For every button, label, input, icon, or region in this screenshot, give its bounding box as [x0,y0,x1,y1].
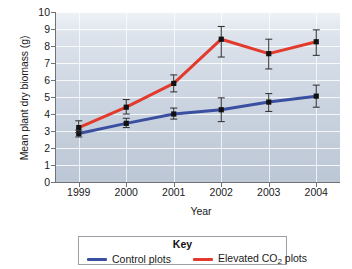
x-axis-tick-label: 2002 [194,186,248,198]
legend-item-elevated: Elevated CO2 plots [193,252,307,266]
x-axis-tick-mark [316,183,317,187]
data-point-marker [266,100,271,105]
y-axis-tick-label: 0 [16,177,50,188]
data-series-layer [55,12,340,182]
legend-swatch-control-icon [87,258,107,261]
data-point-marker [219,37,224,42]
x-axis-tick-mark [221,183,222,187]
y-axis-tick-label: 7 [16,58,50,69]
y-axis-tick-label: 1 [16,160,50,171]
legend-label-elevated: Elevated CO2 plots [218,252,307,266]
data-point-marker [171,81,176,86]
y-axis-tick-label: 9 [16,24,50,35]
y-axis-tick-label: 10 [16,7,50,18]
data-point-marker [171,111,176,116]
legend-title: Key [79,238,286,250]
y-axis-tick-label: 8 [16,41,50,52]
data-point-marker [266,51,271,56]
legend-entries: Control plots Elevated CO2 plots [79,252,286,266]
x-axis-title: Year [55,205,347,217]
data-point-marker [124,121,129,126]
chart-figure: Mean plant dry biomass (g) 012345678910 … [0,0,352,269]
x-axis-tick-label: 2001 [147,186,201,198]
data-point-marker [76,125,81,130]
data-point-marker [219,107,224,112]
x-axis-line [55,182,340,183]
y-axis-tick-label: 4 [16,109,50,120]
legend-label-elevated-prefix: Elevated CO [218,252,278,264]
x-axis-tick-label: 2000 [99,186,153,198]
legend-swatch-elevated-icon [193,258,213,261]
y-axis-tick-label: 2 [16,143,50,154]
legend-item-control: Control plots [87,253,171,265]
legend: Key Control plots Elevated CO2 plots [78,236,287,265]
legend-label-control: Control plots [112,253,171,265]
y-axis-line [55,12,56,182]
x-axis-tick-mark [126,183,127,187]
data-point-marker [314,94,319,99]
legend-label-elevated-suffix: plots [282,252,307,264]
data-point-marker [314,39,319,44]
y-axis-tick-label: 5 [16,92,50,103]
x-axis-tick-mark [79,183,80,187]
x-axis-tick-mark [174,183,175,187]
data-point-marker [124,105,129,110]
y-axis-tick-label: 6 [16,75,50,86]
x-axis-tick-label: 1999 [52,186,106,198]
series-line [79,96,317,133]
y-axis-tick-label: 3 [16,126,50,137]
x-axis-tick-mark [269,183,270,187]
plot-area: 012345678910 199920002001200220032004 [55,12,340,182]
x-axis-tick-label: 2004 [289,186,343,198]
x-axis-tick-label: 2003 [242,186,296,198]
series-line [79,39,317,127]
